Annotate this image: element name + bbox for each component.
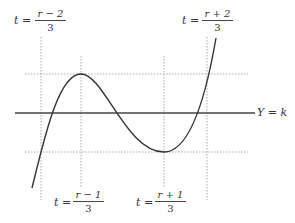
denominator: 3 xyxy=(73,202,104,214)
denominator: 3 xyxy=(35,21,66,33)
numerator: r + 1 xyxy=(155,189,186,202)
k-variable: k xyxy=(280,106,287,119)
numerator: r − 1 xyxy=(73,189,104,202)
denominator: 3 xyxy=(202,21,233,33)
denominator: 3 xyxy=(155,202,186,214)
label-lhs: t xyxy=(14,14,18,27)
y-variable: Y xyxy=(257,106,264,119)
fraction-r-plus-1-over-3: r + 1 3 xyxy=(155,189,186,214)
label-eq: = xyxy=(62,196,71,209)
label-eq: = xyxy=(144,196,153,209)
fraction-r-minus-2-over-3: r − 2 3 xyxy=(35,8,66,33)
fraction-r-minus-1-over-3: r − 1 3 xyxy=(73,189,104,214)
label-t-r-plus-1: t = xyxy=(136,197,153,208)
numerator: r + 2 xyxy=(202,8,233,21)
label-t-r-minus-2: t = xyxy=(14,15,31,26)
label-lhs: t xyxy=(136,196,140,209)
fraction-r-plus-2-over-3: r + 2 3 xyxy=(202,8,233,33)
cubic-diagram xyxy=(0,0,295,223)
label-eq: = xyxy=(22,14,31,27)
equals-sign: = xyxy=(268,106,277,119)
label-eq: = xyxy=(190,14,199,27)
label-lhs: t xyxy=(54,196,58,209)
y-equals-k-label: Y = k xyxy=(257,107,287,118)
label-t-r-minus-1: t = xyxy=(54,197,71,208)
label-lhs: t xyxy=(182,14,186,27)
numerator: r − 2 xyxy=(35,8,66,21)
label-t-r-plus-2: t = xyxy=(182,15,199,26)
